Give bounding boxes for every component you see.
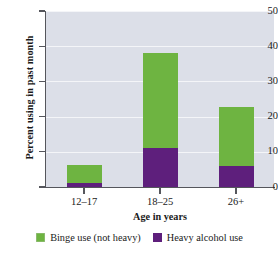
- x-tick-label: 18–25: [120, 196, 200, 207]
- y-tick-mark: [39, 10, 45, 11]
- y-tick-label: 40: [242, 41, 278, 52]
- gridline: [46, 46, 274, 47]
- bar-stack[interactable]: [67, 165, 102, 187]
- y-tick-mark: [39, 46, 45, 47]
- y-tick-mark: [39, 186, 45, 187]
- bar-stack[interactable]: [143, 53, 178, 187]
- y-axis-line: [45, 11, 46, 188]
- x-tick-mark: [235, 188, 236, 194]
- stacked-bar-chart: Percent using in past month 01020304050 …: [0, 0, 278, 255]
- chart-legend: Binge use (not heavy) Heavy alcohol use: [0, 232, 278, 243]
- y-tick-mark: [39, 116, 45, 117]
- bar-segment-heavy[interactable]: [143, 148, 178, 187]
- bar-segment-heavy[interactable]: [67, 183, 102, 187]
- x-tick-mark: [159, 188, 160, 194]
- legend-label-heavy: Heavy alcohol use: [167, 232, 243, 243]
- x-tick-label: 12–17: [44, 196, 124, 207]
- legend-label-binge: Binge use (not heavy): [50, 232, 141, 243]
- y-tick-label: 50: [242, 6, 278, 17]
- x-tick-mark: [83, 188, 84, 194]
- gridline: [46, 11, 274, 12]
- x-axis-title: Age in years: [46, 211, 274, 222]
- bar-segment-binge[interactable]: [143, 53, 178, 148]
- bar-segment-heavy[interactable]: [219, 166, 254, 187]
- legend-item-binge[interactable]: Binge use (not heavy): [35, 232, 141, 243]
- x-tick-label: 26+: [196, 196, 276, 207]
- legend-swatch-heavy-icon: [152, 232, 163, 243]
- legend-swatch-binge-icon: [35, 232, 46, 243]
- bar-segment-binge[interactable]: [67, 165, 102, 183]
- y-axis-title: Percent using in past month: [24, 13, 35, 183]
- y-tick-mark: [39, 151, 45, 152]
- bar-stack[interactable]: [219, 107, 254, 187]
- legend-item-heavy[interactable]: Heavy alcohol use: [152, 232, 243, 243]
- y-tick-mark: [39, 81, 45, 82]
- y-tick-label: 30: [242, 76, 278, 87]
- bar-segment-binge[interactable]: [219, 107, 254, 166]
